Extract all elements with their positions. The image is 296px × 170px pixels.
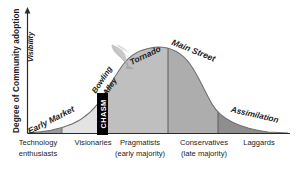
chasm-box: CHASM (97, 93, 108, 135)
y-axis-secondary-label: Visibility (26, 32, 35, 62)
category-line-1: Laggards (228, 138, 290, 149)
chart-canvas: Degree of Community adoption Visibility … (0, 0, 296, 170)
chasm-label: CHASM (98, 99, 107, 128)
y-axis-arrow-icon (25, 7, 31, 14)
category-label-laggards: Laggards (228, 138, 290, 149)
category-line-2: (late majority) (166, 149, 242, 160)
category-line-2: enthusiasts (2, 149, 74, 160)
y-axis-title: Degree of Community adoption (12, 8, 21, 133)
